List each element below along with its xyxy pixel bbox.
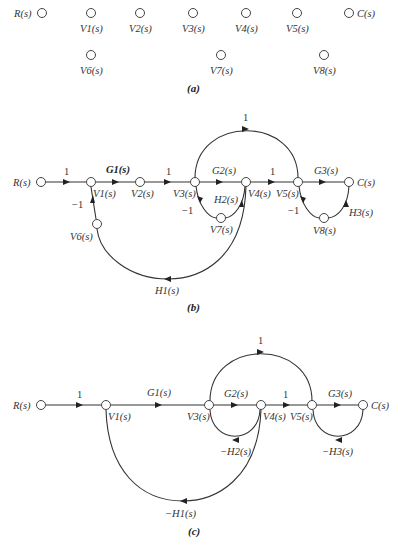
node-label-v8: V8(s): [313, 65, 336, 77]
node-label-v1: V1(s): [80, 23, 103, 35]
gain-v1-v3: G1(s): [147, 387, 171, 399]
node-v5: [293, 9, 302, 18]
gain-v6-v1: −1: [72, 199, 83, 210]
node-r: [37, 178, 46, 187]
gain-r-v1: 1: [64, 166, 69, 177]
arrow-icon: [164, 179, 171, 185]
gain-v4-v5: 1: [270, 166, 275, 177]
arrow-icon: [216, 179, 223, 185]
arrow-icon: [63, 179, 70, 185]
node-r: [37, 401, 46, 410]
panel-b: R(s) V1(s) V2(s) V3(s) V4(s) V5(s) C(s) …: [12, 112, 376, 314]
edge-v4-v3: [210, 410, 260, 436]
arrow-icon: [343, 200, 349, 207]
node-v2: [136, 178, 145, 187]
gain-v4-v1: −H1(s): [165, 508, 197, 520]
node-label-v7: V7(s): [210, 65, 233, 77]
arrow-icon: [300, 196, 306, 203]
arrow-icon: [197, 196, 203, 203]
arrow-icon: [268, 179, 275, 185]
node-v1: [102, 401, 111, 410]
gain-v4-v3: −H2(s): [220, 446, 252, 458]
edge-v3-v5: [195, 131, 298, 178]
node-label-c: C(s): [357, 8, 376, 20]
node-label-v4: V4(s): [263, 411, 286, 423]
gain-v2-v3: 1: [166, 166, 171, 177]
node-v3: [205, 401, 214, 410]
node-label-v6: V6(s): [70, 231, 93, 243]
arrow-icon: [319, 179, 326, 185]
caption-b: (b): [187, 301, 200, 314]
signal-flow-figure: R(s) V1(s) V2(s) V3(s) V4(s) V5(s) C(s) …: [0, 0, 396, 541]
node-label-c: C(s): [357, 177, 376, 189]
edge-v7-v3: [196, 186, 216, 218]
gain-v5-c: G3(s): [314, 165, 338, 177]
edge-v8-v5: [299, 186, 319, 218]
node-label-v5: V5(s): [286, 23, 309, 35]
arrow-icon: [76, 402, 83, 408]
gain-c-v5: −H3(s): [322, 446, 354, 458]
node-v5: [308, 401, 317, 410]
node-v4: [242, 178, 251, 187]
node-label-v3: V3(s): [182, 23, 205, 35]
gain-v7-v3: −1: [182, 205, 193, 216]
gain-v3-v5: 1: [258, 335, 263, 346]
panel-a: R(s) V1(s) V2(s) V3(s) V4(s) V5(s) C(s) …: [13, 8, 376, 95]
node-c: [359, 401, 368, 410]
node-label-v1: V1(s): [108, 411, 131, 423]
arrow-icon: [334, 402, 341, 408]
arrow-icon: [283, 402, 290, 408]
gain-v8-v5: −1: [288, 205, 299, 216]
node-label-v2: V2(s): [129, 23, 152, 35]
node-label-v5: V5(s): [290, 411, 313, 423]
gain-v3-v4: G2(s): [212, 165, 236, 177]
node-label-v7: V7(s): [210, 224, 233, 236]
node-label-v8: V8(s): [313, 225, 336, 237]
node-v1: [87, 9, 96, 18]
node-label-v1: V1(s): [93, 188, 116, 200]
arrow-icon: [112, 179, 119, 185]
node-label-r: R(s): [12, 177, 31, 189]
node-c: [345, 9, 354, 18]
node-label-v3: V3(s): [173, 188, 196, 200]
caption-a: (a): [187, 82, 200, 95]
node-v6: [87, 51, 96, 60]
gain-v1-v2: G1(s): [106, 164, 130, 176]
arrow-icon: [335, 437, 342, 443]
gain-c-v8: H3(s): [348, 207, 373, 219]
node-v4: [242, 9, 251, 18]
gain-v4-v7: H2(s): [213, 194, 238, 206]
node-v6: [93, 220, 102, 229]
node-v8: [320, 214, 329, 223]
node-label-v4: V4(s): [248, 188, 271, 200]
caption-c: (c): [188, 525, 200, 538]
node-v4: [257, 401, 266, 410]
arrow-icon: [232, 437, 239, 443]
node-label-v4: V4(s): [235, 23, 258, 35]
arrow-icon: [180, 498, 187, 504]
node-v2: [136, 9, 145, 18]
node-v3: [191, 178, 200, 187]
panel-c: R(s) V1(s) V3(s) V4(s) V5(s) C(s) 1 G1(s…: [12, 335, 390, 538]
node-label-r: R(s): [12, 400, 31, 412]
node-label-r: R(s): [13, 8, 32, 20]
gain-v3-v4: G2(s): [224, 388, 248, 400]
node-label-c: C(s): [371, 400, 390, 412]
gain-v5-c: G3(s): [328, 388, 352, 400]
node-v3: [189, 9, 198, 18]
node-label-v3: V3(s): [187, 411, 210, 423]
node-label-v5: V5(s): [276, 188, 299, 200]
node-v5: [294, 178, 303, 187]
node-v8: [320, 51, 329, 60]
arrow-icon: [164, 276, 171, 282]
edge-c-v5: [313, 410, 363, 436]
node-label-v2: V2(s): [131, 188, 154, 200]
node-label-v6: V6(s): [80, 65, 103, 77]
arrow-icon: [231, 402, 238, 408]
node-c: [345, 178, 354, 187]
gain-v4-v6: H1(s): [154, 285, 179, 297]
node-r: [38, 9, 47, 18]
gain-v4-v5: 1: [283, 389, 288, 400]
node-v7: [217, 51, 226, 60]
node-v7: [217, 214, 226, 223]
